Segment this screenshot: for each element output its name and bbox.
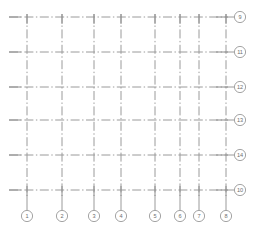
axis-bubble-label-9: 9 [239,14,242,20]
axis-bubble-label-10: 10 [237,187,243,193]
vertical-gridline-group [27,14,226,196]
axis-bubble-label-4: 4 [120,213,123,219]
horizontal-gridline-group [9,17,228,190]
axis-bubble-label-6: 6 [179,213,182,219]
axis-bubble-label-13: 13 [237,117,243,123]
axis-bubble-label-1: 1 [26,213,29,219]
axis-bubble-label-11: 11 [237,49,242,55]
horizontal-axis-bubble-group: 91112131410 [228,11,246,195]
axis-bubble-label-5: 5 [154,213,157,219]
axis-bubble-label-3: 3 [93,213,96,219]
axis-bubble-label-12: 12 [237,84,243,90]
grid-svg-canvas: 91112131410 12345678 [0,0,256,229]
axis-bubble-label-8: 8 [225,213,228,219]
cad-grid-drawing: 91112131410 12345678 [0,0,256,229]
vertical-axis-bubble-group: 12345678 [21,196,231,222]
axis-bubble-label-14: 14 [237,152,243,158]
axis-bubble-label-2: 2 [61,213,64,219]
axis-bubble-label-7: 7 [198,213,201,219]
